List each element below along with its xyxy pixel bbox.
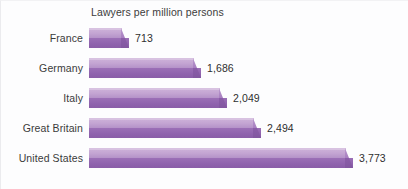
value-label-italy: 2,049 xyxy=(233,92,260,104)
bar-shape-united-states xyxy=(89,148,353,168)
bar-highlight xyxy=(89,88,220,90)
category-label-italy: Italy xyxy=(1,92,83,104)
bar-shape-great-britain xyxy=(89,118,261,138)
bar-bottom-face xyxy=(89,68,201,78)
bar-highlight xyxy=(89,148,346,150)
category-label-france: France xyxy=(1,32,83,44)
bar-chart-figure: Lawyers per million persons France 713 G… xyxy=(0,0,408,189)
bar-bottom-face xyxy=(89,98,227,108)
bar-highlight xyxy=(89,28,122,30)
bar-united-states xyxy=(89,148,353,168)
bar-germany xyxy=(89,58,201,78)
bar-shape-germany xyxy=(89,58,201,78)
bar-france xyxy=(89,28,129,48)
chart-row-germany: Germany 1,686 xyxy=(1,58,408,88)
category-label-germany: Germany xyxy=(1,62,83,74)
bar-highlight xyxy=(89,118,254,120)
bar-shape-france xyxy=(89,28,129,48)
category-label-great-britain: Great Britain xyxy=(1,122,83,134)
bar-shape-italy xyxy=(89,88,227,108)
bar-italy xyxy=(89,88,227,108)
chart-row-italy: Italy 2,049 xyxy=(1,88,408,118)
chart-row-great-britain: Great Britain 2,494 xyxy=(1,118,408,148)
chart-row-france: France 713 xyxy=(1,28,408,58)
bar-bottom-face xyxy=(89,158,353,168)
value-label-germany: 1,686 xyxy=(207,62,234,74)
category-label-united-states: United States xyxy=(1,152,83,164)
value-label-united-states: 3,773 xyxy=(359,152,386,164)
bar-great-britain xyxy=(89,118,261,138)
value-label-great-britain: 2,494 xyxy=(267,122,294,134)
chart-title: Lawyers per million persons xyxy=(91,6,224,18)
chart-row-united-states: United States 3,773 xyxy=(1,148,408,178)
value-label-france: 713 xyxy=(135,32,153,44)
bar-highlight xyxy=(89,58,194,60)
bar-bottom-face xyxy=(89,128,261,138)
